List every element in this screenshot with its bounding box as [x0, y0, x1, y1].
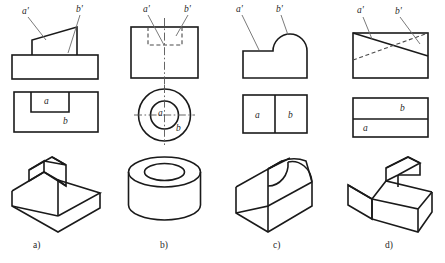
label-a-prime-col-c: a'	[236, 4, 243, 14]
caption-d: d)	[385, 240, 393, 250]
label-a-prime-col-b: a'	[143, 4, 150, 14]
hidden-bore-b	[148, 27, 182, 45]
caption-a: a)	[33, 240, 40, 250]
front-view-c	[243, 34, 307, 78]
top-view-a	[14, 92, 98, 132]
drawing-canvas	[0, 0, 445, 263]
face-label-a-col-b: a	[158, 108, 163, 118]
face-label-a-col-a: a	[44, 96, 49, 106]
label-a-prime-col-a: a'	[22, 6, 29, 16]
pictorial-c	[236, 158, 312, 232]
pictorial-d	[348, 157, 432, 232]
caption-b: b)	[160, 240, 168, 250]
label-b-prime-col-c: b'	[276, 4, 283, 14]
label-b-prime-col-a: b'	[76, 4, 83, 14]
technical-drawing-figure: a' b' a' b' a' b' a' b' a b a b a b b a …	[0, 0, 445, 263]
pictorial-a	[12, 157, 100, 232]
centerlines-b	[134, 85, 195, 145]
face-label-a-col-d: a	[363, 123, 368, 133]
face-label-b-col-d: b	[400, 103, 405, 113]
top-view-c	[243, 95, 307, 133]
front-view-a	[12, 27, 98, 79]
caption-c: c)	[273, 240, 280, 250]
pictorial-b	[129, 157, 201, 220]
label-a-prime-col-d: a'	[357, 5, 364, 15]
face-label-b-col-c: b	[288, 110, 293, 120]
face-label-b-col-a: b	[63, 116, 68, 126]
label-b-prime-col-d: b'	[395, 6, 402, 16]
face-label-a-col-c: a	[255, 110, 260, 120]
leader-lines	[28, 15, 420, 53]
face-label-b-col-b: b	[176, 123, 181, 133]
label-b-prime-col-b: b'	[184, 4, 191, 14]
